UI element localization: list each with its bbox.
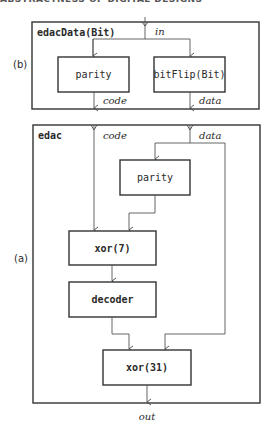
diagram-b: (b) edacData(Bit) in parity bitFlip(Bit)… — [13, 17, 259, 109]
in-label: in — [155, 26, 165, 37]
edac-title: edac — [38, 130, 62, 141]
decoder-block[interactable]: decoder — [69, 282, 156, 317]
parity-label: parity — [137, 172, 173, 183]
xor7-label: xor(7) — [94, 243, 130, 254]
decoder-label: decoder — [91, 294, 133, 305]
parity-to-xor7-wire — [129, 195, 155, 230]
bitflip-block[interactable]: bitFlip(Bit) — [153, 57, 225, 92]
code-in-label: code — [103, 130, 127, 141]
bitflip-label: bitFlip(Bit) — [153, 69, 225, 80]
out-label: out — [139, 411, 156, 422]
edacdata-title: edacData(Bit) — [37, 27, 115, 38]
parity-block-a[interactable]: parity — [120, 160, 190, 195]
data-out-label: data — [199, 95, 221, 106]
xor7-block[interactable]: xor(7) — [69, 231, 156, 265]
decoder-to-xor31-wire — [112, 317, 129, 349]
in-fanout-wire — [93, 39, 190, 56]
diagram-a: (a) edac code data parity xor(7) decoder — [14, 125, 260, 422]
panel-label-b: (b) — [13, 59, 27, 70]
data-to-parity-wire — [155, 143, 190, 159]
edac-block-diagram: (b) edacData(Bit) in parity bitFlip(Bit)… — [0, 0, 275, 437]
parity-label: parity — [75, 69, 111, 80]
code-out-label: code — [103, 95, 127, 106]
xor31-label: xor(31) — [126, 362, 168, 373]
data-in-label: data — [199, 130, 221, 141]
xor31-block[interactable]: xor(31) — [103, 350, 191, 385]
parity-block-b[interactable]: parity — [58, 57, 129, 92]
panel-label-a: (a) — [14, 253, 28, 264]
